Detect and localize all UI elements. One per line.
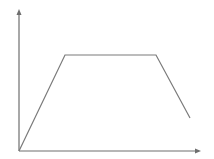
profile-series-line [19, 55, 190, 151]
y-axis [17, 9, 22, 151]
chart-container [0, 0, 214, 159]
y-axis-arrow-icon [17, 9, 22, 15]
x-axis [19, 149, 201, 154]
trapezoid-profile-chart [0, 0, 214, 159]
x-axis-arrow-icon [195, 149, 201, 154]
